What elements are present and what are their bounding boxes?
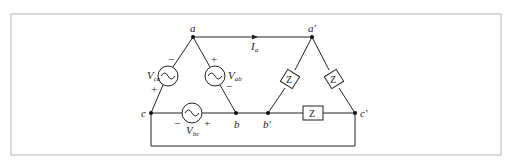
vbc-plus-sign: + <box>204 117 210 129</box>
node-c-prime <box>353 111 357 115</box>
node-a <box>191 35 195 39</box>
vca-minus-sign: − <box>168 53 174 65</box>
label-node-c-prime: c′ <box>360 107 368 119</box>
node-b <box>234 111 238 115</box>
vca-plus-sign: + <box>151 83 157 95</box>
node-a-prime <box>310 35 314 39</box>
vab-minus-sign: − <box>226 80 232 92</box>
figure-frame <box>11 14 501 155</box>
label-z-ab: Z <box>286 74 292 85</box>
node-b-prime <box>266 111 270 115</box>
label-node-b-prime: b′ <box>263 118 272 130</box>
vab-plus-sign: + <box>211 53 217 65</box>
vbc-minus-sign: − <box>174 117 180 129</box>
label-node-a: a <box>190 22 196 34</box>
circuit-diagram: a a′ c b b′ c′ Ia Vca − + Vab + − Vbc − … <box>0 0 509 163</box>
label-node-a-prime: a′ <box>308 22 317 34</box>
label-node-b: b <box>234 118 240 130</box>
label-z-ac: Z <box>330 74 336 85</box>
node-c <box>149 111 153 115</box>
label-z-bc: Z <box>309 108 315 119</box>
label-node-c: c <box>141 107 146 119</box>
